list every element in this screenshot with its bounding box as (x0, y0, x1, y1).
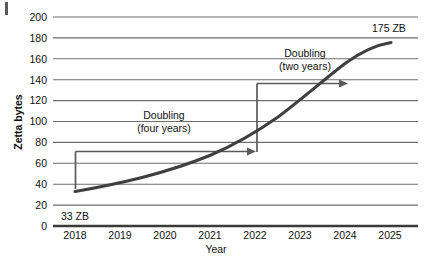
x-tick-label-2025: 2025 (378, 229, 402, 241)
y-tick-label-80: 80 (35, 136, 47, 148)
y-tick-label-160: 160 (29, 53, 47, 65)
y-tick-label-100: 100 (29, 115, 47, 127)
four-years-arrowhead (247, 148, 256, 156)
two-years-label-line2: (two years) (279, 60, 331, 72)
chart-canvas: 200 180 160 140 120 100 80 60 40 20 0 Ze… (0, 0, 433, 267)
gridlines (53, 17, 418, 205)
y-tick-label-20: 20 (35, 199, 47, 211)
y-tick-label-180: 180 (29, 32, 47, 44)
x-tick-label-2023: 2023 (288, 229, 312, 241)
corner-tick-mark (5, 2, 8, 15)
start-value-label: 33 ZB (61, 210, 89, 222)
y-tick-label-120: 120 (29, 94, 47, 106)
x-tick-label-2020: 2020 (153, 229, 177, 241)
y-tick-label-40: 40 (35, 178, 47, 190)
annotation-doubling-two-years-text: Doubling (two years) (279, 47, 331, 72)
annotation-doubling-four-years-text: Doubling (four years) (137, 109, 191, 134)
two-years-arrowhead (339, 80, 348, 88)
two-years-label-line1: Doubling (284, 47, 326, 59)
y-tick-label-60: 60 (35, 157, 47, 169)
x-tick-label-2021: 2021 (198, 229, 222, 241)
end-value-label: 175 ZB (372, 22, 406, 34)
y-tick-label-140: 140 (29, 74, 47, 86)
x-tick-label-2024: 2024 (333, 229, 357, 241)
four-years-label-line2: (four years) (137, 122, 191, 134)
annotation-doubling-two-years-arrow (257, 80, 348, 152)
x-axis-title: Year (205, 243, 227, 255)
annotation-doubling-four-years-arrow (76, 148, 257, 189)
y-axis-title: Zetta bytes (12, 94, 24, 150)
chart-figure: 200 180 160 140 120 100 80 60 40 20 0 Ze… (0, 0, 433, 267)
x-tick-label-2019: 2019 (108, 229, 132, 241)
x-tick-label-2022: 2022 (243, 229, 267, 241)
four-years-label-line1: Doubling (143, 109, 185, 121)
data-series-line (75, 43, 391, 192)
x-tick-labels: 2018 2019 2020 2021 2022 2023 2024 2025 (63, 229, 402, 241)
y-tick-label-0: 0 (41, 220, 47, 232)
y-tick-labels: 200 180 160 140 120 100 80 60 40 20 0 (29, 11, 47, 232)
y-tick-label-200: 200 (29, 11, 47, 23)
x-tick-label-2018: 2018 (63, 229, 87, 241)
